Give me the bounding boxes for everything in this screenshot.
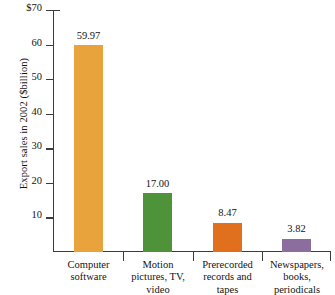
category-label-newspapers-books: Newspapers, books, periodicals <box>262 259 332 295</box>
y-tick-mark-30 <box>46 148 53 149</box>
y-tick-label-60: 60 <box>32 37 43 48</box>
category-label-line: books, <box>262 271 332 283</box>
y-tick-mark-10 <box>46 217 53 218</box>
y-tick-mark-60 <box>46 45 53 46</box>
y-tick-label-10: 10 <box>32 209 43 220</box>
bar-newspapers-books[interactable] <box>282 239 311 252</box>
bar-value-computer-software: 59.97 <box>59 30 118 41</box>
category-label-line: pictures, TV, <box>123 271 193 283</box>
bar-computer-software[interactable] <box>74 45 103 252</box>
y-tick-mark-50 <box>46 79 53 80</box>
y-tick-label-40: 40 <box>32 106 43 117</box>
category-label-computer-software: Computer software <box>54 259 123 284</box>
bar-value-newspapers-books: 3.82 <box>267 223 326 234</box>
category-label-line: Newspapers, <box>262 259 332 271</box>
y-tick-mark-40 <box>46 114 53 115</box>
bar-prerecorded-records[interactable] <box>213 223 242 252</box>
bar-motion-pictures[interactable] <box>143 193 172 252</box>
category-label-line: video <box>123 284 193 295</box>
y-tick-label-30: 30 <box>32 140 43 151</box>
category-label-line: Prerecorded <box>193 259 262 271</box>
category-label-line: Motion <box>123 259 193 271</box>
category-label-line: software <box>54 271 123 283</box>
y-axis-line <box>53 10 54 252</box>
y-tick-mark-70 <box>46 10 53 11</box>
bar-value-motion-pictures: 17.00 <box>128 178 187 189</box>
category-label-line: Computer <box>54 259 123 271</box>
y-tick-label-20: 20 <box>32 175 43 186</box>
category-label-prerecorded-records: Prerecorded records and tapes <box>193 259 262 295</box>
category-label-line: tapes <box>193 284 262 295</box>
category-label-line: records and <box>193 271 262 283</box>
y-axis-top-cap <box>53 10 60 11</box>
category-label-motion-pictures: Motion pictures, TV, video <box>123 259 193 295</box>
bar-chart: Export sales in 2002 ($billion) $70 60 5… <box>0 0 335 295</box>
y-tick-mark-20 <box>46 183 53 184</box>
y-axis-title: Export sales in 2002 ($billion) <box>18 9 29 239</box>
bar-value-prerecorded-records: 8.47 <box>198 207 257 218</box>
y-tick-label-50: 50 <box>32 71 43 82</box>
category-label-line: periodicals <box>262 284 332 295</box>
y-tick-label-70: $70 <box>26 2 42 13</box>
